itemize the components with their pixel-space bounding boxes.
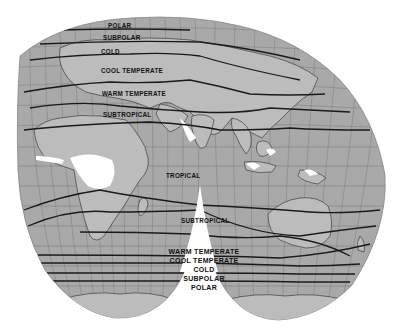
label-subpolar-north: SUBPOLAR	[103, 34, 141, 42]
label-polar-north: POLAR	[108, 22, 131, 30]
southern-zone-label-stack: WARM TEMPERATE COOL TEMPERATE COLD SUBPO…	[162, 247, 246, 292]
label-cold-south: COLD	[162, 265, 246, 274]
label-polar-south: POLAR	[162, 283, 246, 292]
antarctica-east	[225, 295, 345, 333]
label-subpolar-south: SUBPOLAR	[162, 274, 246, 283]
antarctica-west	[60, 293, 175, 333]
label-cool-temperate-south: COOL TEMPERATE	[162, 256, 246, 265]
label-warm-temperate-south: WARM TEMPERATE	[162, 247, 246, 256]
label-cool-temperate-north: COOL TEMPERATE	[101, 67, 163, 75]
label-subtropical-north: SUBTROPICAL	[103, 111, 151, 119]
label-cold-north: COLD	[101, 48, 120, 56]
label-subtropical-south: SUBTROPICAL	[181, 217, 229, 225]
label-tropical: TROPICAL	[166, 172, 200, 180]
label-warm-temperate-north: WARM TEMPERATE	[102, 90, 166, 98]
